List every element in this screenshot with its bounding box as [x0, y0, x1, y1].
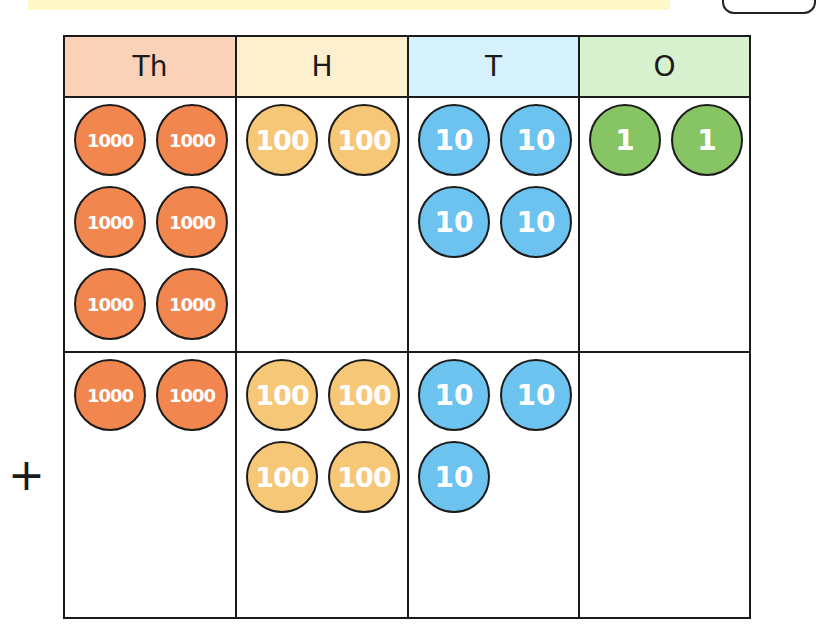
ten-counter: 10: [418, 441, 490, 513]
top-right-box: [722, 0, 816, 14]
header-ones: O: [579, 36, 750, 97]
thousand-counter: 1000: [156, 186, 228, 258]
ten-counter: 10: [418, 104, 490, 176]
hundred-counter: 100: [246, 104, 318, 176]
ten-counter: 10: [500, 104, 572, 176]
header-tens-label: T: [485, 50, 502, 83]
plus-sign: +: [8, 450, 44, 500]
one-counter: 1: [589, 104, 661, 176]
counter-group: 100100100100: [237, 353, 407, 513]
header-hundreds-label: H: [311, 50, 332, 83]
ten-counter: 10: [418, 359, 490, 431]
hundred-counter: 100: [328, 104, 400, 176]
counter-group: 100100: [237, 98, 407, 176]
counter-group: [580, 353, 749, 359]
cell-thousands: 10001000: [64, 352, 236, 618]
ten-counter: 10: [418, 186, 490, 258]
header-tens: T: [408, 36, 579, 97]
thousand-counter: 1000: [156, 268, 228, 340]
counter-group: 11: [580, 98, 749, 176]
thousand-counter: 1000: [74, 268, 146, 340]
first-addend-row: 100010001000100010001000 100100 10101010…: [64, 97, 750, 352]
thousand-counter: 1000: [156, 359, 228, 431]
thousand-counter: 1000: [74, 186, 146, 258]
counter-group: 10001000: [65, 353, 235, 431]
top-banner: [28, 0, 670, 10]
header-thousands: Th: [64, 36, 236, 97]
header-row: Th H T O: [64, 36, 750, 97]
cell-tens: 10101010: [408, 97, 579, 352]
cell-tens: 101010: [408, 352, 579, 618]
hundred-counter: 100: [246, 359, 318, 431]
hundred-counter: 100: [328, 359, 400, 431]
cell-ones: 11: [579, 97, 750, 352]
cell-ones: [579, 352, 750, 618]
ten-counter: 10: [500, 186, 572, 258]
cell-thousands: 100010001000100010001000: [64, 97, 236, 352]
one-counter: 1: [671, 104, 743, 176]
thousand-counter: 1000: [74, 104, 146, 176]
thousand-counter: 1000: [74, 359, 146, 431]
cell-hundreds: 100100100100: [236, 352, 408, 618]
counter-group: 10101010: [409, 98, 578, 258]
hundred-counter: 100: [328, 441, 400, 513]
ten-counter: 10: [500, 359, 572, 431]
counter-group: 100010001000100010001000: [65, 98, 235, 340]
counter-group: 101010: [409, 353, 578, 513]
hundred-counter: 100: [246, 441, 318, 513]
header-thousands-label: Th: [133, 50, 168, 83]
place-value-table: Th H T O 100010001000100010001000 100100…: [63, 35, 751, 619]
header-hundreds: H: [236, 36, 408, 97]
thousand-counter: 1000: [156, 104, 228, 176]
second-addend-row: 10001000 100100100100 101010: [64, 352, 750, 618]
header-ones-label: O: [653, 50, 675, 83]
cell-hundreds: 100100: [236, 97, 408, 352]
